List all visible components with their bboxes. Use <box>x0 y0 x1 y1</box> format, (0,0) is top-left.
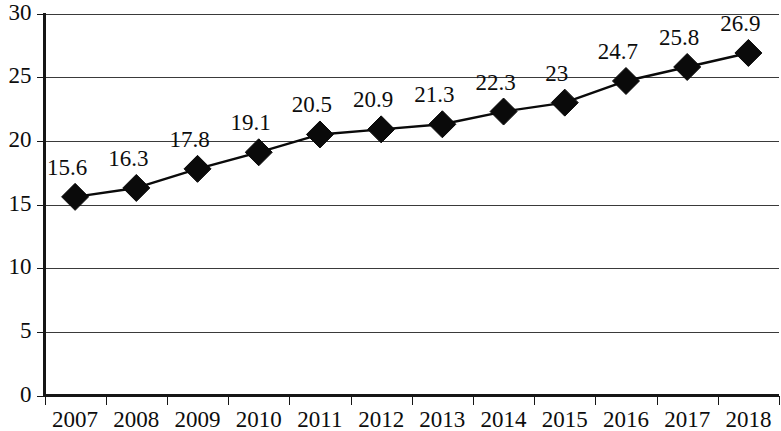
data-label-2017: 25.8 <box>659 25 699 50</box>
chart-background <box>0 0 781 431</box>
y-axis-label-0: 0 <box>20 382 32 407</box>
data-label-2012: 20.9 <box>353 87 393 112</box>
x-axis-label-2017: 2017 <box>664 407 710 431</box>
x-axis-label-2018: 2018 <box>725 407 771 431</box>
y-axis-label-10: 10 <box>9 254 32 279</box>
y-axis-label-5: 5 <box>20 318 32 343</box>
x-axis-label-2014: 2014 <box>481 407 528 431</box>
x-axis-label-2007: 2007 <box>52 407 98 431</box>
y-axis-label-25: 25 <box>9 63 32 88</box>
x-axis-label-2012: 2012 <box>358 407 404 431</box>
data-label-2018: 26.9 <box>720 11 760 36</box>
data-label-2015: 23 <box>545 61 568 86</box>
chart-canvas: 051015202530 200720082009201020112012201… <box>0 0 781 431</box>
x-axis-label-2016: 2016 <box>603 407 649 431</box>
x-axis-label-2011: 2011 <box>297 407 342 431</box>
data-label-2008: 16.3 <box>108 146 148 171</box>
y-axis-label-30: 30 <box>9 0 32 25</box>
data-label-2009: 17.8 <box>169 127 209 152</box>
x-axis-label-2010: 2010 <box>236 407 282 431</box>
data-label-2016: 24.7 <box>598 39 638 64</box>
y-axis-label-15: 15 <box>9 191 32 216</box>
data-label-2010: 19.1 <box>231 110 271 135</box>
data-label-2011: 20.5 <box>292 92 332 117</box>
x-axis-label-2013: 2013 <box>419 407 465 431</box>
y-axis-label-20: 20 <box>9 127 32 152</box>
line-chart: 051015202530 200720082009201020112012201… <box>0 0 781 431</box>
data-label-2007: 15.6 <box>47 155 87 180</box>
x-axis-label-2008: 2008 <box>113 407 159 431</box>
x-axis-label-2009: 2009 <box>175 407 221 431</box>
data-label-2014: 22.3 <box>475 70 515 95</box>
data-label-2013: 21.3 <box>414 82 454 107</box>
x-axis-label-2015: 2015 <box>542 407 588 431</box>
